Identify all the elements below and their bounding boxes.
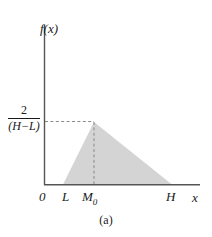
figure-container: f(x) 2 (H−L) 0 L M0 H x (a) (0, 0, 212, 237)
x-tick-label-mode-base: M (82, 189, 93, 204)
x-tick-label-mode: M0 (82, 190, 97, 207)
fraction-numerator: 2 (6, 104, 42, 118)
fraction-denominator: (H−L) (6, 119, 42, 133)
x-tick-label-mode-subscript: 0 (93, 197, 98, 207)
x-axis-label: x (192, 191, 198, 204)
triangle-density-region (63, 122, 172, 185)
figure-caption: (a) (0, 213, 212, 228)
x-tick-label-origin: 0 (39, 190, 46, 203)
y-axis-label: f(x) (40, 22, 58, 35)
y-axis-tick-label: 2 (H−L) (6, 104, 42, 132)
x-tick-label-upper-bound: H (166, 190, 175, 203)
x-tick-label-lower-bound: L (62, 190, 69, 203)
